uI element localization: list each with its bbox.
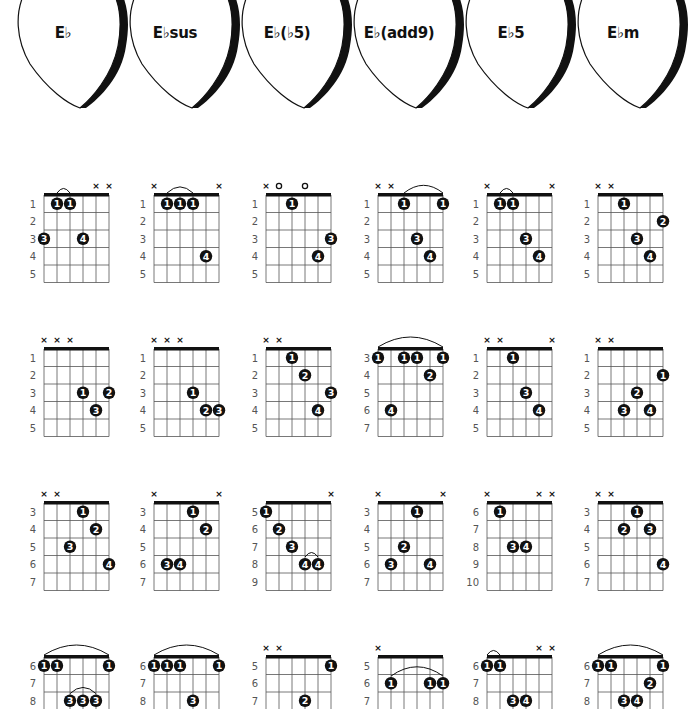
svg-text:1: 1 [608, 660, 615, 671]
barre-arc [598, 645, 663, 655]
fret-number: 6 [584, 661, 590, 672]
finger-dot: 1 [657, 660, 669, 672]
fret-number: 8 [584, 696, 590, 707]
fret-number: 7 [584, 678, 590, 689]
finger-dot: 2 [644, 677, 656, 689]
finger-dot: 4 [631, 695, 643, 707]
svg-text:1: 1 [660, 660, 667, 671]
finger-dot: 1 [592, 660, 604, 672]
svg-text:2: 2 [647, 678, 654, 689]
svg-text:1: 1 [595, 660, 602, 671]
svg-text:3: 3 [621, 695, 628, 706]
svg-text:4: 4 [634, 695, 641, 706]
finger-dot: 3 [618, 695, 630, 707]
finger-dot: 1 [605, 660, 617, 672]
